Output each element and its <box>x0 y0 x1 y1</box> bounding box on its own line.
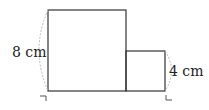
small-square-side-label: 4 cm <box>169 64 203 78</box>
small-square <box>126 51 165 91</box>
corner-mark-right <box>166 95 172 100</box>
corner-mark-left <box>40 96 46 101</box>
large-square <box>48 10 126 91</box>
large-square-side-label: 8 cm <box>12 45 46 59</box>
